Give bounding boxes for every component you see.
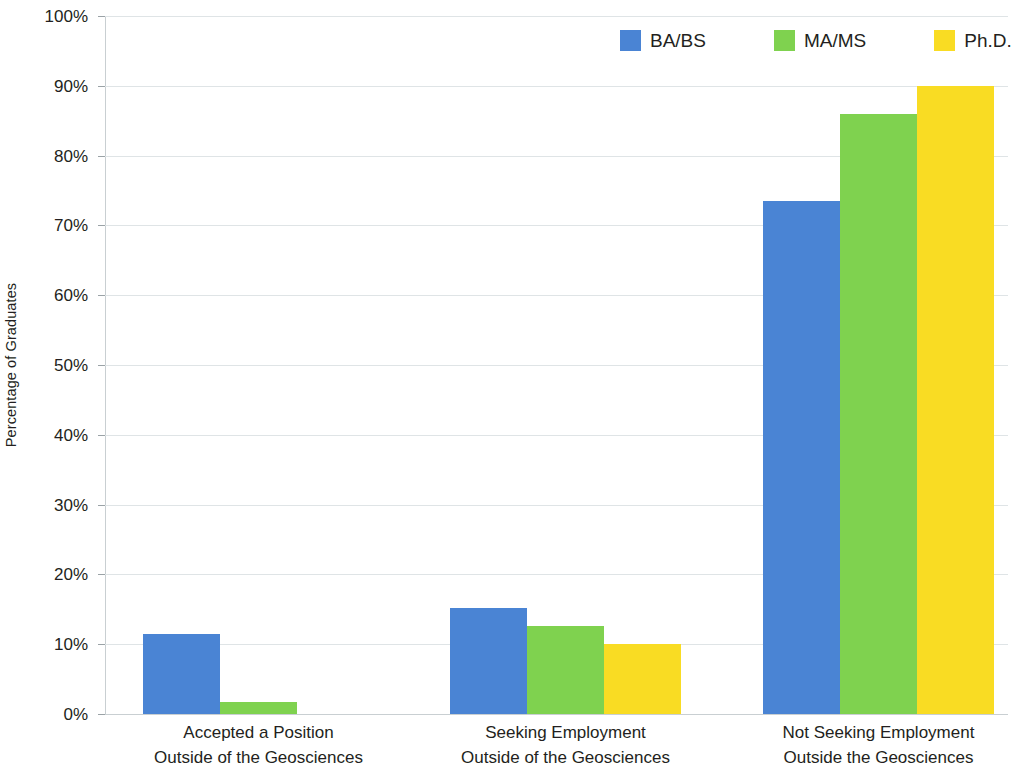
- x-axis-category-label: Seeking EmploymentOutside of the Geoscie…: [406, 720, 726, 770]
- x-axis-category-label-line: Outside of the Geosciences: [406, 745, 726, 770]
- bar: [763, 201, 840, 714]
- y-axis-tick: [98, 295, 105, 296]
- legend-swatch-ba-bs: [620, 30, 641, 51]
- bar-chart: Percentage of Graduates 0%10%20%30%40%50…: [0, 0, 1013, 771]
- bar: [917, 86, 994, 714]
- legend-swatch-ph-d: [934, 30, 955, 51]
- x-axis-category-label-line: Seeking Employment: [406, 720, 726, 745]
- y-axis-tick-labels: 0%10%20%30%40%50%60%70%80%90%100%: [0, 0, 105, 771]
- gridline: [105, 86, 1008, 87]
- y-axis-tick: [98, 225, 105, 226]
- y-axis-tick: [98, 714, 105, 715]
- gridline: [105, 714, 1008, 715]
- plot-area: [105, 16, 1008, 714]
- legend-item: Ph.D.: [934, 30, 1012, 51]
- x-axis-category-label: Accepted a PositionOutside of the Geosci…: [99, 720, 419, 770]
- bar: [604, 644, 681, 714]
- y-axis-tick-label: 80%: [4, 148, 88, 165]
- bar: [143, 634, 220, 714]
- y-axis-tick-label: 40%: [4, 427, 88, 444]
- y-axis-tick-label: 50%: [4, 357, 88, 374]
- y-axis-tick: [98, 365, 105, 366]
- y-axis-tick-label: 10%: [4, 636, 88, 653]
- y-axis-tick: [98, 16, 105, 17]
- legend-label: MA/MS: [804, 30, 866, 51]
- y-axis-tick: [98, 574, 105, 575]
- bar: [450, 608, 527, 714]
- x-axis-category-label-line: Outside of the Geosciences: [99, 745, 419, 770]
- y-axis-tick: [98, 156, 105, 157]
- x-axis-category-label-line: Outside the Geosciences: [719, 745, 1013, 770]
- bar: [220, 702, 297, 714]
- y-axis-tick: [98, 86, 105, 87]
- y-axis-tick-label: 90%: [4, 78, 88, 95]
- bar: [527, 626, 604, 714]
- x-axis-category-labels: Accepted a PositionOutside of the Geosci…: [105, 720, 1008, 771]
- x-axis-category-label-line: Accepted a Position: [99, 720, 419, 745]
- y-axis-tick-label: 60%: [4, 287, 88, 304]
- y-axis-tick-label: 0%: [4, 706, 88, 723]
- bar: [840, 114, 917, 714]
- y-axis-tick-label: 70%: [4, 217, 88, 234]
- legend: BA/BSMA/MSPh.D.: [620, 28, 1012, 52]
- x-axis-category-label: Not Seeking EmploymentOutside the Geosci…: [719, 720, 1013, 770]
- legend-item: MA/MS: [774, 30, 866, 51]
- y-axis-tick-label: 100%: [4, 8, 88, 25]
- legend-swatch-ma-ms: [774, 30, 795, 51]
- legend-label: Ph.D.: [964, 30, 1012, 51]
- y-axis-tick-label: 20%: [4, 566, 88, 583]
- legend-label: BA/BS: [650, 30, 706, 51]
- legend-item: BA/BS: [620, 30, 706, 51]
- y-axis-tick-label: 30%: [4, 497, 88, 514]
- y-axis-tick: [98, 505, 105, 506]
- x-axis-category-label-line: Not Seeking Employment: [719, 720, 1013, 745]
- gridline: [105, 16, 1008, 17]
- y-axis-tick: [98, 435, 105, 436]
- y-axis-tick: [98, 644, 105, 645]
